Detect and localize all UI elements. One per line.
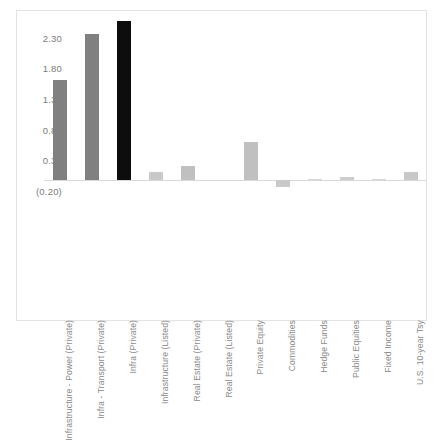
bar — [276, 180, 290, 187]
bar — [244, 142, 258, 180]
bar — [149, 172, 163, 179]
x-category-label: U.S. 10-year Tsy — [415, 320, 425, 385]
x-category-label: Infra (Private) — [128, 320, 138, 374]
bar — [308, 179, 322, 180]
x-category-label: Infra - Transport (Private) — [96, 320, 106, 419]
x-category-label: Private Equity — [255, 320, 265, 374]
bar-series — [44, 14, 427, 192]
x-category-label: Real Estate (Listed) — [224, 320, 234, 397]
bar — [372, 179, 386, 180]
x-category-label: Public Equities — [351, 320, 361, 378]
plot-area — [44, 14, 427, 192]
x-axis-category-labels: Infrastructure - Power (Private)Infra - … — [44, 194, 427, 322]
bar — [404, 172, 418, 179]
bar — [181, 166, 195, 180]
x-category-label: Commodities — [287, 320, 297, 371]
bar — [85, 34, 99, 179]
x-category-label: Infrastructure (Listed) — [160, 320, 170, 404]
bar — [340, 177, 354, 180]
x-category-label: Infrastructure - Power (Private) — [64, 320, 74, 441]
x-category-label: Real Estate (Private) — [192, 320, 202, 401]
x-category-label: Hedge Funds — [319, 320, 329, 373]
bar — [53, 80, 67, 179]
bar — [117, 21, 131, 179]
x-category-label: Fixed Income — [383, 320, 393, 373]
